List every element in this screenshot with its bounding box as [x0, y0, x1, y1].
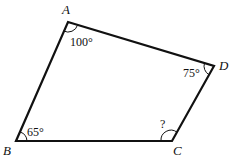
vertex-label-b: B: [3, 143, 11, 157]
quadrilateral-diagram: A D C B 100° 75° 65° ?: [0, 0, 235, 157]
angle-value-d: 75°: [183, 66, 200, 80]
angle-value-c: ?: [160, 117, 165, 131]
angle-arc-b: [20, 132, 27, 141]
vertex-label-c: C: [173, 143, 182, 157]
angle-value-a: 100°: [70, 35, 93, 49]
quadrilateral-abcd: [16, 22, 214, 141]
vertex-label-a: A: [61, 2, 70, 17]
angle-value-b: 65°: [27, 125, 44, 139]
vertex-label-d: D: [218, 58, 229, 73]
